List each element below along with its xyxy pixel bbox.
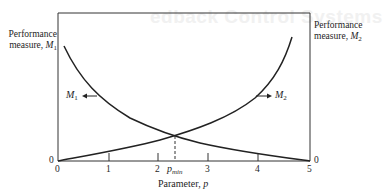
left-y-label-line1: Performance xyxy=(2,29,57,40)
x-tick-label-1: 1 xyxy=(106,164,111,174)
x-tick-label-0: 0 xyxy=(55,164,60,174)
left-y-origin-label: 0 xyxy=(49,155,54,165)
left-y-label-subscript: 1 xyxy=(54,44,58,52)
x-tick-label-2: 2 xyxy=(155,164,160,174)
right-y-label-line1: Performance xyxy=(314,20,363,31)
right-y-label-subscript: 2 xyxy=(358,35,362,43)
m2-arrowhead xyxy=(267,94,272,99)
x-axis-label-symbol: p xyxy=(203,178,208,189)
left-y-label-line2: measure, M1 xyxy=(2,40,57,54)
m1-curve-label: M1 xyxy=(66,89,78,102)
left-y-label-text: measure, xyxy=(9,40,45,50)
x-axis-label: Parameter, p xyxy=(158,178,208,189)
x-tick-label-5: 5 xyxy=(307,164,312,174)
x-tick-label-3: 3 xyxy=(205,164,210,174)
right-y-axis-label: Performance measure, M2 xyxy=(314,20,363,45)
pmin-label: pmin xyxy=(167,163,183,176)
right-y-origin-label: 0 xyxy=(314,155,319,165)
right-y-label-line2: measure, M2 xyxy=(314,31,363,45)
m1-subscript: 1 xyxy=(74,94,78,102)
pmin-subscript: min xyxy=(172,168,183,176)
right-y-label-text: measure, xyxy=(314,31,350,41)
x-tick-label-4: 4 xyxy=(255,164,260,174)
m2-subscript: 2 xyxy=(283,94,287,102)
left-y-label-symbol: M xyxy=(46,40,54,50)
m1-curve xyxy=(64,46,310,161)
m1-arrowhead xyxy=(82,94,87,99)
x-axis-label-text: Parameter, xyxy=(158,178,203,189)
m2-curve-label: M2 xyxy=(275,89,287,102)
left-y-axis-label: Performance measure, M1 xyxy=(2,29,57,54)
